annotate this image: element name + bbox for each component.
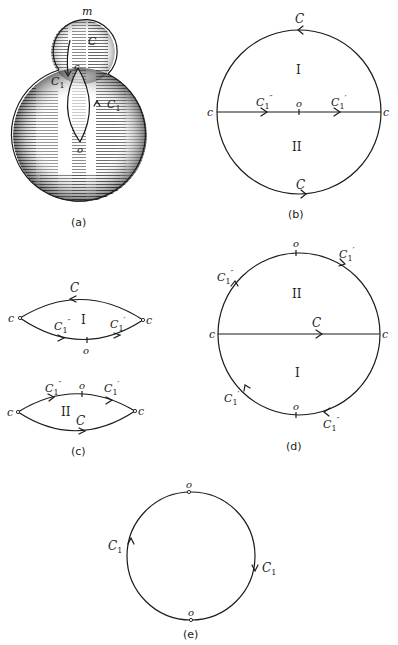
label-C1-prime: C1′ — [110, 315, 126, 333]
label-o-bottom: o — [293, 401, 299, 412]
label-c-right: c — [382, 328, 388, 341]
label-C1-left: C1 — [108, 539, 122, 555]
label-c-left: c — [209, 328, 215, 341]
label-C1-prime: C1′ — [331, 93, 347, 111]
label-C1-prime: C1′ — [104, 379, 120, 397]
label-C1-double-prime: C1″ — [45, 379, 62, 397]
label-C1-prime-top: C1′ — [339, 245, 355, 263]
caption-d: (d) — [286, 440, 302, 453]
label-m: m — [82, 5, 92, 18]
label-o: o — [79, 380, 85, 391]
lens-lower: C1″ o C1′ II C c c — [7, 379, 144, 434]
label-o-bottom: o — [188, 607, 194, 618]
label-c-left: c — [7, 406, 13, 419]
label-o: o — [296, 98, 302, 109]
lens-upper: C I c c o C1″ C1′ — [8, 281, 152, 356]
label-C: C — [76, 414, 85, 428]
label-C-bottom: C — [296, 178, 305, 192]
figure-canvas: m C c C1 C1 o (a) C I II C c c o C1″ C1′… — [0, 0, 398, 645]
label-c-left: c — [8, 312, 14, 325]
arrow-left-icon — [70, 296, 76, 302]
arrow-right-icon — [114, 333, 120, 338]
label-region-II: II — [61, 405, 71, 419]
panel-c-lens-diagrams: C I c c o C1″ C1′ C1″ o C1′ II C c c (c) — [7, 281, 152, 458]
arrow-up-left-icon — [244, 385, 250, 391]
label-o-top: o — [186, 479, 192, 490]
label-C1-double-prime-bottom: C1″ — [323, 415, 340, 433]
label-C1-right: C1 — [262, 561, 276, 577]
label-region-I: I — [295, 366, 300, 380]
caption-b: (b) — [288, 208, 304, 221]
label-region-I: I — [296, 63, 301, 77]
panel-e-circle-diagram: o o C1 C1 (e) — [108, 479, 276, 641]
arrow-right-icon — [58, 335, 64, 341]
label-C: C — [88, 35, 97, 48]
arrow-left-icon — [324, 408, 330, 416]
label-c-right: c — [138, 405, 144, 418]
label-region-II: II — [292, 140, 302, 154]
label-region-I: I — [81, 313, 86, 327]
label-C: C — [70, 281, 79, 295]
label-C1-prime-bottom: C1′ — [224, 389, 240, 407]
label-c-right: c — [146, 314, 152, 327]
caption-a: (a) — [71, 216, 86, 229]
caption-c: (c) — [71, 445, 86, 458]
label-o-top: o — [293, 238, 299, 249]
panel-a-surface-figure: m C c C1 C1 o (a) — [0, 5, 160, 229]
label-c-left: c — [207, 106, 213, 119]
panel-b-circle-diagram: C I II C c c o C1″ C1′ (b) — [207, 12, 389, 221]
label-c: c — [74, 61, 80, 72]
label-o: o — [83, 345, 89, 356]
label-c-right: c — [383, 106, 389, 119]
shaded-body — [0, 10, 160, 210]
label-C: C — [312, 316, 321, 330]
label-region-II: II — [292, 287, 302, 301]
arrow-right-icon — [106, 397, 112, 404]
label-C-top: C — [295, 12, 304, 26]
label-C1-double-prime-top: C1″ — [217, 268, 234, 286]
caption-e: (e) — [183, 628, 198, 641]
label-C1-double-prime: C1″ — [54, 317, 71, 335]
label-C1-double-prime: C1″ — [256, 93, 273, 111]
label-o: o — [77, 144, 83, 155]
panel-d-circle-diagram: o C1′ C1″ II C c c I C1′ o C1″ (d) — [209, 238, 388, 453]
